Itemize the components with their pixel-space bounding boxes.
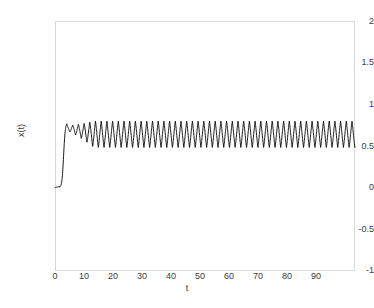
y-axis-label: x(t) [16, 124, 26, 137]
x-tick-label: 50 [185, 272, 215, 281]
x-tick-label: 70 [243, 272, 273, 281]
x-tick-label: 80 [272, 272, 302, 281]
y-tick-label: 1 [348, 100, 374, 109]
figure-canvas: 2 1.5 1 0.5 0 -0.5 -1 0 10 20 30 40 50 6… [0, 0, 374, 308]
y-tick-label: -1 [348, 266, 374, 275]
x-tick-label: 60 [214, 272, 244, 281]
x-axis-label: t [0, 283, 374, 293]
plot-area [55, 21, 355, 271]
y-tick-label: 0.5 [348, 142, 374, 151]
x-tick-label: 30 [127, 272, 157, 281]
x-tick-label: 0 [40, 272, 70, 281]
x-tick-label: 40 [156, 272, 186, 281]
y-tick-label: 2 [348, 17, 374, 26]
y-tick-label: -0.5 [348, 225, 374, 234]
x-tick-label: 20 [98, 272, 128, 281]
x-tick-label: 90 [301, 272, 331, 281]
y-tick-label: 1.5 [348, 58, 374, 67]
x-tick-label: 10 [69, 272, 99, 281]
y-tick-label: 0 [348, 183, 374, 192]
